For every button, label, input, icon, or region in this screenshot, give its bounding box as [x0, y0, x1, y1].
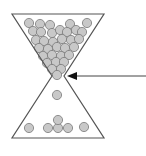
ball: [69, 42, 78, 51]
ball: [52, 90, 61, 99]
ball: [43, 123, 52, 132]
ball: [53, 115, 62, 124]
arrow-pointer: [67, 72, 146, 80]
ball: [57, 34, 66, 43]
ball: [74, 34, 83, 43]
ball: [63, 123, 72, 132]
ball: [52, 70, 61, 79]
ball: [24, 123, 33, 132]
hourglass-diagram: [0, 0, 146, 156]
ball: [79, 122, 88, 131]
lower-chamber-balls: [24, 115, 88, 132]
ball: [36, 27, 45, 36]
ball: [82, 18, 91, 27]
falling-balls: [52, 90, 61, 99]
arrow-head-icon: [67, 72, 77, 80]
